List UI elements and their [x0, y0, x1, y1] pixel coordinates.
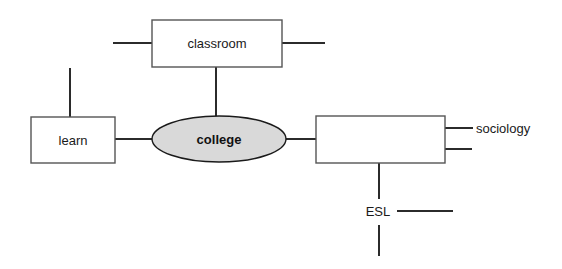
node-learn[interactable]: learn — [31, 117, 115, 163]
node-empty-right[interactable] — [316, 116, 445, 163]
node-college[interactable]: college — [152, 116, 286, 162]
concept-map-canvas: classroom learn college sociology ESL — [0, 0, 562, 269]
node-college-label: college — [197, 132, 242, 147]
node-learn-label: learn — [59, 133, 88, 148]
node-classroom[interactable]: classroom — [152, 20, 282, 67]
node-empty-right-shape[interactable] — [316, 116, 445, 163]
node-classroom-label: classroom — [187, 36, 246, 51]
label-esl: ESL — [366, 204, 391, 219]
label-sociology: sociology — [476, 121, 531, 136]
concept-map-svg: classroom learn college sociology ESL — [0, 0, 562, 269]
